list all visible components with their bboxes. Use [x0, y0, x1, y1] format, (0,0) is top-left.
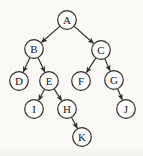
node-I: I: [25, 100, 44, 119]
node-J: J: [117, 100, 136, 119]
node-label-C: C: [97, 44, 104, 56]
node-A: A: [58, 11, 77, 30]
nodes-layer: ABCDEFGIHJK: [10, 11, 136, 147]
node-label-G: G: [110, 74, 118, 86]
node-E: E: [40, 72, 59, 91]
node-K: K: [73, 128, 92, 147]
node-label-I: I: [32, 103, 36, 115]
node-label-B: B: [30, 43, 37, 55]
edge-H-K: [72, 118, 78, 128]
edge-E-H: [54, 89, 61, 100]
node-label-D: D: [15, 75, 23, 87]
edge-A-B: [42, 26, 60, 42]
edge-B-E: [38, 58, 45, 72]
edge-A-C: [74, 26, 93, 43]
edge-C-F: [87, 58, 96, 72]
node-label-J: J: [124, 103, 129, 115]
node-H: H: [58, 100, 77, 119]
edge-G-J: [118, 89, 122, 100]
figure-page: ABCDEFGIHJK: [0, 0, 143, 156]
node-label-F: F: [78, 75, 84, 87]
edge-C-G: [105, 59, 110, 71]
node-F: F: [72, 72, 91, 91]
edge-E-I: [39, 90, 45, 100]
node-label-H: H: [63, 103, 71, 115]
edge-B-D: [23, 58, 30, 72]
node-label-E: E: [46, 75, 53, 87]
node-B: B: [25, 40, 44, 59]
node-C: C: [92, 41, 111, 60]
node-label-A: A: [63, 14, 71, 26]
tree-diagram: ABCDEFGIHJK: [0, 0, 143, 156]
node-D: D: [10, 72, 29, 91]
node-label-K: K: [78, 131, 86, 143]
node-G: G: [105, 71, 124, 90]
